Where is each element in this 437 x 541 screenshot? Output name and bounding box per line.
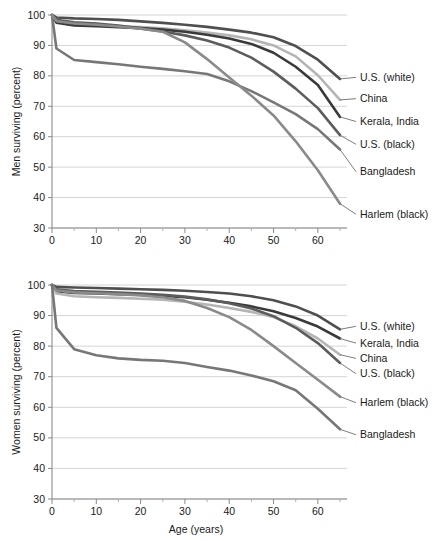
series-label-harlem-black: Harlem (black) <box>360 396 428 408</box>
series-label-u-s-white: U.S. (white) <box>360 71 415 83</box>
y-tick-label: 50 <box>33 431 45 443</box>
leader-line <box>340 135 356 144</box>
y-tick-label: 90 <box>33 39 45 51</box>
y-tick-label: 40 <box>33 191 45 203</box>
leader-line <box>340 355 356 359</box>
series-label-kerala-india: Kerala, India <box>360 115 419 127</box>
series-labels: U.S. (white)Kerala, IndiaChinaU.S. (blac… <box>340 320 428 441</box>
series-label-u-s-black: U.S. (black) <box>360 138 415 150</box>
y-tick-label: 70 <box>33 370 45 382</box>
x-tick-label: 10 <box>90 505 102 517</box>
series-label-u-s-white: U.S. (white) <box>360 320 415 332</box>
figure-root: 304050607080901000102030405060U.S. (whit… <box>0 0 437 541</box>
series-line-china <box>52 285 340 355</box>
leader-line <box>340 326 356 329</box>
y-axis-title: Men surviving (percent) <box>10 67 22 177</box>
x-tick-label: 60 <box>312 505 324 517</box>
x-tick-label: 50 <box>268 234 280 246</box>
y-tick-label: 30 <box>33 493 45 505</box>
x-tick-label: 20 <box>135 234 147 246</box>
y-tick-label: 40 <box>33 462 45 474</box>
leader-line <box>340 204 356 215</box>
leader-line <box>340 99 356 100</box>
series-line-harlem-black <box>52 285 340 397</box>
leader-line <box>340 397 356 403</box>
series-label-kerala-india: Kerala, India <box>360 337 419 349</box>
series-labels: U.S. (white)ChinaKerala, IndiaU.S. (blac… <box>340 71 428 220</box>
x-tick-label: 0 <box>49 505 55 517</box>
y-tick-label: 70 <box>33 100 45 112</box>
y-axis-ticks: 30405060708090100 <box>27 9 52 234</box>
leader-line <box>340 117 356 122</box>
x-tick-label: 0 <box>49 234 55 246</box>
y-tick-label: 60 <box>33 130 45 142</box>
series-line-bangladesh <box>52 15 340 149</box>
leader-line <box>340 77 356 79</box>
series-group <box>52 15 340 204</box>
plot-men: 304050607080901000102030405060U.S. (whit… <box>0 0 437 270</box>
y-tick-label: 80 <box>33 69 45 81</box>
leader-line <box>340 339 356 344</box>
x-tick-label: 30 <box>179 505 191 517</box>
x-tick-label: 40 <box>223 505 235 517</box>
y-tick-label: 90 <box>33 309 45 321</box>
series-line-harlem-black <box>52 15 340 204</box>
x-axis-ticks: 0102030405060 <box>49 228 340 246</box>
x-axis-ticks: 0102030405060 <box>49 499 340 517</box>
leader-line <box>340 363 356 374</box>
plot-women: 304050607080901000102030405060U.S. (whit… <box>0 270 437 541</box>
y-tick-label: 100 <box>27 279 45 291</box>
y-tick-label: 30 <box>33 222 45 234</box>
y-axis-title: Women surviving (percent) <box>10 329 22 454</box>
x-tick-label: 10 <box>90 234 102 246</box>
x-tick-label: 20 <box>135 505 147 517</box>
y-tick-label: 100 <box>27 9 45 21</box>
y-axis-ticks: 30405060708090100 <box>27 279 52 505</box>
chart-women-surviving: 304050607080901000102030405060U.S. (whit… <box>0 270 437 541</box>
x-tick-label: 40 <box>223 234 235 246</box>
leader-line <box>340 429 356 435</box>
leader-line <box>340 150 356 172</box>
gridlines <box>52 15 347 228</box>
series-label-u-s-black: U.S. (black) <box>360 367 415 379</box>
series-label-china: China <box>360 92 388 104</box>
y-tick-label: 60 <box>33 401 45 413</box>
series-label-harlem-black: Harlem (black) <box>360 208 428 220</box>
series-label-bangladesh: Bangladesh <box>360 165 416 177</box>
gridlines <box>52 285 347 499</box>
series-label-bangladesh: Bangladesh <box>360 428 416 440</box>
y-tick-label: 50 <box>33 161 45 173</box>
x-tick-label: 50 <box>268 505 280 517</box>
series-line-china <box>52 15 340 100</box>
x-axis-title: Age (years) <box>169 523 223 535</box>
x-tick-label: 30 <box>179 234 191 246</box>
chart-men-surviving: 304050607080901000102030405060U.S. (whit… <box>0 0 437 270</box>
series-label-china: China <box>360 352 388 364</box>
x-tick-label: 60 <box>312 234 324 246</box>
y-tick-label: 80 <box>33 340 45 352</box>
